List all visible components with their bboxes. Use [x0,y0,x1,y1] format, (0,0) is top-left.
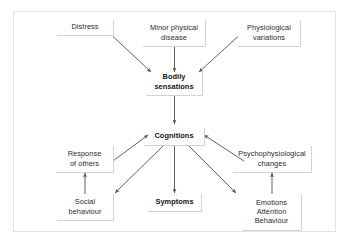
node-symptoms: Symptoms [148,194,202,212]
node-cognitions-label: Cognitions [148,131,200,140]
node-social-behaviour-label: Social behaviour [61,197,109,215]
node-emotions-attention-behaviour: Emotions Attention Behaviour [242,194,302,231]
node-psychophysiological-changes-label: Psychophysiological changes [237,149,307,167]
node-cognitions: Cognitions [144,128,205,146]
node-symptoms-label: Symptoms [152,197,197,206]
node-minor-physical-disease-label: Minor physical disease [147,23,201,41]
node-minor-physical-disease: Minor physical disease [143,20,206,47]
node-bodily-sensations-label: Bodily sensations [150,72,198,90]
node-bodily-sensations: Bodily sensations [146,69,203,96]
diagram-figure: Distress Minor physical disease Physiolo… [0,0,349,244]
node-social-behaviour: Social behaviour [57,194,114,221]
node-distress: Distress [57,20,114,36]
node-emotions-attention-behaviour-label: Emotions Attention Behaviour [246,198,297,226]
node-psychophysiological-changes: Psychophysiological changes [233,146,312,173]
node-physiological-variations-label: Physiological variations [242,23,296,41]
node-response-of-others: Response of others [56,146,114,173]
node-distress-label: Distress [61,22,109,31]
node-response-of-others-label: Response of others [60,149,109,167]
node-physiological-variations: Physiological variations [238,20,301,47]
